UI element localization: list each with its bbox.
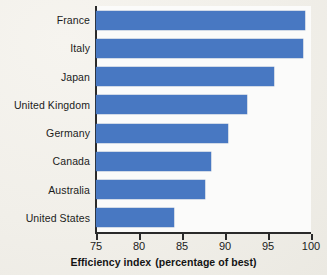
bar — [96, 152, 211, 171]
bar — [96, 11, 305, 30]
bar-row: France — [0, 6, 327, 34]
bar-category-label: France — [0, 14, 90, 26]
x-axis-tick-label: 95 — [248, 240, 288, 252]
x-axis-tick-label: 80 — [119, 240, 159, 252]
bar — [96, 95, 247, 114]
bar-track — [96, 91, 311, 119]
x-axis-caption-main: Efficiency index — [70, 256, 151, 268]
x-axis-caption-parenthetical: (percentage of best) — [155, 256, 256, 268]
x-axis-tick-label: 85 — [162, 240, 202, 252]
bar-rows: FranceItalyJapanUnited KingdomGermanyCan… — [0, 6, 327, 232]
bar-chart: FranceItalyJapanUnited KingdomGermanyCan… — [0, 0, 327, 275]
bar-row: Australia — [0, 176, 327, 204]
bar-category-label: Canada — [0, 155, 90, 167]
bar-category-label: Japan — [0, 71, 90, 83]
bar-track — [96, 147, 311, 175]
x-axis-tick-label: 90 — [205, 240, 245, 252]
bar-track — [96, 204, 311, 232]
x-axis-caption: Efficiency index(percentage of best) — [0, 256, 327, 268]
bar-track — [96, 119, 311, 147]
bar-row: Canada — [0, 147, 327, 175]
bar — [96, 124, 228, 143]
bar-row: Germany — [0, 119, 327, 147]
bar-track — [96, 6, 311, 34]
bar-track — [96, 176, 311, 204]
bar — [96, 39, 303, 58]
bar-track — [96, 63, 311, 91]
bar-row: United States — [0, 204, 327, 232]
bar — [96, 67, 274, 86]
bar-row: United Kingdom — [0, 91, 327, 119]
x-axis-tick-label: 100 — [291, 240, 327, 252]
x-axis-tick-labels: 7580859095100 — [0, 240, 327, 256]
bar — [96, 180, 205, 199]
bar-row: Japan — [0, 63, 327, 91]
bar-category-label: Australia — [0, 184, 90, 196]
x-axis-tick-label: 75 — [76, 240, 116, 252]
bar-category-label: United States — [0, 212, 90, 224]
bar-category-label: United Kingdom — [0, 99, 90, 111]
bar-row: Italy — [0, 34, 327, 62]
bar-track — [96, 34, 311, 62]
bar-category-label: Italy — [0, 42, 90, 54]
bar — [96, 208, 174, 227]
bar-category-label: Germany — [0, 127, 90, 139]
